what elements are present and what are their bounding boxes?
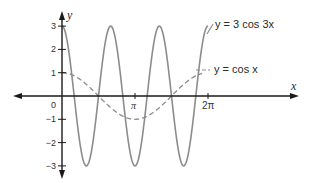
x-axis-label: x — [290, 79, 297, 93]
series2-label: y = cos x — [214, 63, 258, 75]
y-tick-label: −2 — [46, 138, 56, 148]
y-tick-label: 1 — [51, 68, 56, 78]
y-tick-label: −1 — [46, 114, 56, 124]
y-tick-label: −3 — [46, 161, 56, 171]
y-tick-label: 3 — [51, 21, 56, 31]
y-axis-down-arrow-icon — [59, 170, 65, 179]
y-axis-up-arrow-icon — [59, 11, 65, 20]
series1-leader — [207, 24, 213, 34]
chart: 321−1−2−3 0 π 2π y x y = 3 cos 3x y = co… — [0, 0, 310, 183]
origin-label: 0 — [51, 100, 56, 110]
series1-label: y = 3 cos 3x — [215, 18, 275, 30]
x-axis-right-arrow-icon — [290, 93, 299, 99]
two-pi-label: 2π — [202, 100, 215, 111]
pi-label: π — [131, 100, 137, 111]
y-axis-label: y — [66, 8, 73, 22]
x-axis-left-arrow-icon — [13, 93, 22, 99]
y-tick-label: 2 — [51, 44, 56, 54]
